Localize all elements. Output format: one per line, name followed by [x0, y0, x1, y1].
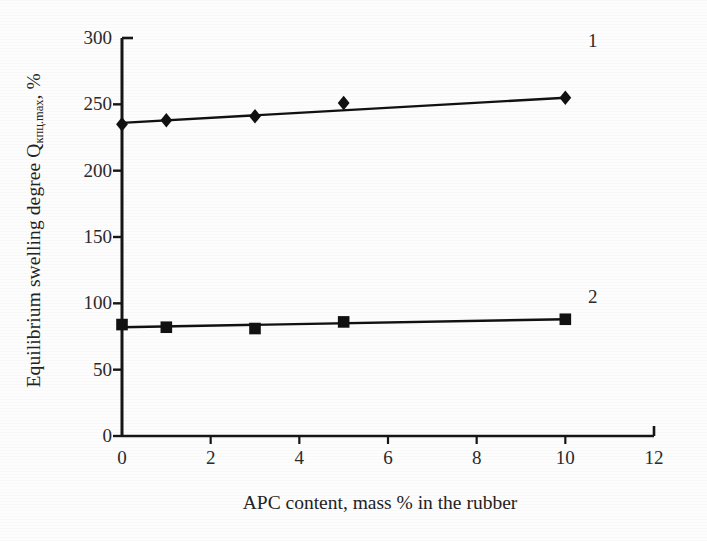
data-point-marker	[338, 316, 350, 328]
data-point-marker	[116, 117, 128, 131]
x-axis-title: APC content, mass % in the rubber	[120, 492, 640, 514]
chart-figure: Equilibrium swelling degree Qкпц.max, % …	[0, 0, 707, 541]
data-point-marker	[560, 313, 572, 325]
data-point-marker	[249, 109, 261, 123]
series-markers	[116, 91, 571, 335]
plot-area	[0, 0, 707, 541]
axis-lines	[122, 38, 654, 436]
data-point-marker	[249, 323, 261, 335]
data-point-marker	[559, 91, 571, 105]
data-point-marker	[160, 113, 172, 127]
data-point-marker	[338, 96, 350, 110]
series-trend-lines	[122, 98, 565, 328]
series-label-1: 1	[588, 30, 598, 52]
series-label-2: 2	[588, 286, 598, 308]
data-point-marker	[161, 321, 173, 333]
data-point-marker	[116, 319, 128, 331]
